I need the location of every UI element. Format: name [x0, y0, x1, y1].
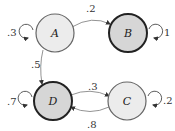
edge-a-to-b: .2	[72, 3, 110, 27]
edge-d-to-c: .3	[71, 81, 109, 96]
node-label-c: C	[123, 95, 132, 108]
edge-label-a-b: .2	[86, 3, 96, 14]
self-loop-label-d: .7	[7, 96, 17, 107]
node-b: B	[109, 14, 147, 52]
edge-label-c-d: .8	[87, 119, 97, 130]
node-a: A	[36, 14, 74, 52]
self-loop-c: .2	[148, 91, 173, 106]
self-loop-label-c: .2	[163, 95, 173, 106]
node-label-d: D	[48, 95, 58, 108]
self-loop-d: .7	[7, 91, 32, 107]
edge-label-a-d: .5	[31, 59, 41, 70]
node-label-b: B	[123, 27, 132, 40]
self-loop-label-a: .3	[7, 27, 17, 38]
edge-label-d-c: .3	[88, 81, 98, 92]
self-loop-b: 1	[149, 24, 170, 38]
edge-a-to-d: .5	[31, 50, 43, 84]
self-loop-label-b: 1	[164, 27, 170, 38]
markov-chain-diagram: .2 .5 .3 .8 .3 1 .2 .7 A B C	[0, 0, 175, 131]
node-d: D	[34, 82, 72, 120]
edge-c-to-d: .8	[71, 107, 109, 130]
node-label-a: A	[50, 27, 59, 40]
self-loop-a: .3	[7, 24, 33, 38]
node-c: C	[108, 82, 146, 120]
